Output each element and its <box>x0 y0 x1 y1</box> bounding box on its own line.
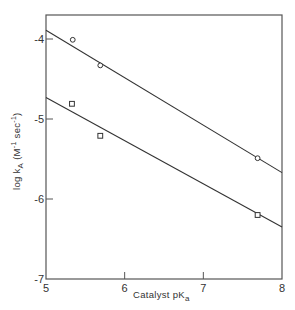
chart-canvas: 5678-4-5-6-7 Catalyst pKa log kA (M-1 se… <box>0 0 295 310</box>
x-axis-label: Catalyst pKa <box>133 289 190 303</box>
data-point-circle <box>70 37 75 42</box>
fit-line-circles <box>46 30 282 172</box>
fit-lines <box>46 30 282 227</box>
y-tick-label: -6 <box>34 193 44 205</box>
data-points <box>70 37 260 217</box>
y-tick-label: -4 <box>34 33 44 45</box>
y-tick-label: -7 <box>34 273 44 285</box>
axis-ticks: 5678-4-5-6-7 <box>34 33 285 294</box>
fit-line-squares <box>46 97 282 227</box>
plot-frame <box>46 15 282 279</box>
data-point-square <box>70 101 75 106</box>
y-tick-label: -5 <box>34 113 44 125</box>
data-point-square <box>98 133 103 138</box>
x-tick-label: 6 <box>122 282 128 294</box>
x-tick-label: 8 <box>279 282 285 294</box>
data-point-circle <box>255 156 260 161</box>
data-point-circle <box>98 63 103 68</box>
data-point-square <box>255 213 260 218</box>
x-tick-label: 7 <box>200 282 206 294</box>
y-axis-label: log kA (M-1 sec-1) <box>10 112 25 190</box>
